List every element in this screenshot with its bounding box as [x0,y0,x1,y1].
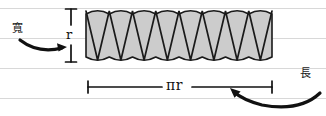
zigzag-sector-strip [86,11,272,61]
length-annotation-label: 長 [300,68,311,79]
width-annotation-label: 寬 [12,23,23,34]
strip-outline [86,11,272,61]
length-annotation-arrow [230,88,320,107]
diagram-canvas: r πr 寬 長 [0,0,326,116]
width-dimension-label: πr [166,78,183,92]
diagram-vector-layer [0,0,326,116]
width-annotation-arrow [20,40,67,51]
height-dimension-label: r [66,28,72,41]
